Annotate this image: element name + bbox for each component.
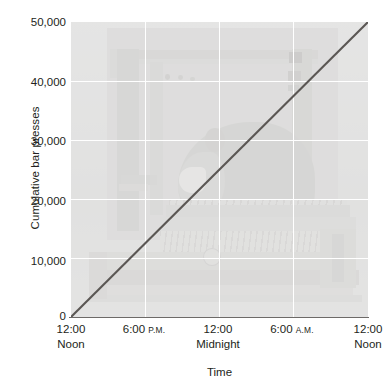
- x-tick-period: P.M.: [148, 325, 165, 335]
- y-tick-label: 40,000: [2, 77, 66, 89]
- x-tick-label-6pm: 6:00 P.M.: [114, 322, 174, 337]
- y-tick-label: 50,000: [2, 17, 66, 29]
- x-tick-sub: Noon: [41, 337, 101, 352]
- x-tick-time: 6:00: [123, 323, 145, 335]
- x-tick-period: A.M.: [296, 325, 314, 335]
- x-tick-sub: Midnight: [188, 337, 248, 352]
- x-tick-label-6am: 6:00 A.M.: [262, 322, 322, 337]
- x-tick-time: 12:00: [57, 323, 86, 335]
- cumulative-record-figure: Cumulative bar presses 50,000 40,000 30,…: [0, 0, 389, 387]
- x-tick-sub: Noon: [338, 337, 389, 352]
- x-tick-time: 12:00: [204, 323, 233, 335]
- x-tick-label-midnight: 12:00 Midnight: [188, 322, 248, 351]
- plot-area: [71, 22, 368, 317]
- y-tick-label: 0: [2, 311, 66, 323]
- cumulative-record-line: [71, 22, 368, 317]
- x-axis-line: [69, 317, 369, 318]
- y-tick-label: 10,000: [2, 256, 66, 268]
- x-tick-label-noon-start: 12:00 Noon: [41, 322, 101, 351]
- x-tick-label-noon-end: 12:00 Noon: [338, 322, 389, 351]
- y-tick-label: 30,000: [2, 136, 66, 148]
- x-axis-title: Time: [71, 366, 368, 378]
- x-tick-time: 12:00: [354, 323, 383, 335]
- x-tick-time: 6:00: [270, 323, 292, 335]
- y-tick-label: 20,000: [2, 196, 66, 208]
